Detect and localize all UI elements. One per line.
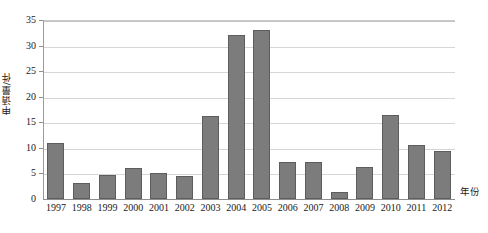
x-tick-label: 2000: [123, 202, 143, 214]
x-tick-label: 2001: [149, 202, 169, 214]
x-tick-label: 2010: [381, 202, 401, 214]
x-axis-ticks: 1997199819992000200120022003200420052006…: [43, 202, 455, 218]
y-axis-ticks: 05101520253035: [0, 0, 43, 233]
y-tick-label: 15: [26, 117, 36, 127]
bar: [99, 175, 116, 199]
x-tick-label: 2008: [329, 202, 349, 214]
x-tick-label: 2005: [252, 202, 272, 214]
y-tick-label: 10: [26, 143, 36, 153]
x-axis-title: 年份: [460, 186, 480, 197]
bar: [408, 145, 425, 199]
x-tick-label: 1997: [46, 202, 66, 214]
bar: [253, 30, 270, 199]
y-tick-label: 20: [26, 92, 36, 102]
bar: [331, 192, 348, 199]
bar-chart: 申请量/件 05101520253035 1997199819992000200…: [0, 0, 488, 233]
x-tick-label: 2007: [303, 202, 323, 214]
bar: [176, 176, 193, 199]
x-tick-label: 2006: [278, 202, 298, 214]
bar: [202, 116, 219, 199]
bars-layer: [43, 20, 455, 199]
y-tick-label: 25: [26, 66, 36, 76]
bar: [150, 173, 167, 199]
y-tick-label: 35: [26, 15, 36, 25]
bar: [73, 183, 90, 199]
x-tick-label: 2004: [226, 202, 246, 214]
x-tick-label: 1998: [72, 202, 92, 214]
x-tick-label: 2003: [200, 202, 220, 214]
bar: [382, 115, 399, 199]
bar: [356, 167, 373, 199]
x-axis-line: [43, 199, 455, 200]
x-tick-label: 2002: [175, 202, 195, 214]
bar: [228, 35, 245, 199]
x-tick-label: 2011: [407, 202, 427, 214]
bar: [125, 168, 142, 199]
bar: [434, 151, 451, 199]
bar: [279, 162, 296, 199]
bar: [305, 162, 322, 199]
y-tick-label: 5: [31, 168, 36, 178]
y-tick-label: 30: [26, 41, 36, 51]
x-tick-label: 2012: [432, 202, 452, 214]
y-tick-label: 0: [31, 194, 36, 204]
x-tick-label: 1999: [97, 202, 117, 214]
bar: [47, 143, 64, 199]
x-tick-label: 2009: [355, 202, 375, 214]
